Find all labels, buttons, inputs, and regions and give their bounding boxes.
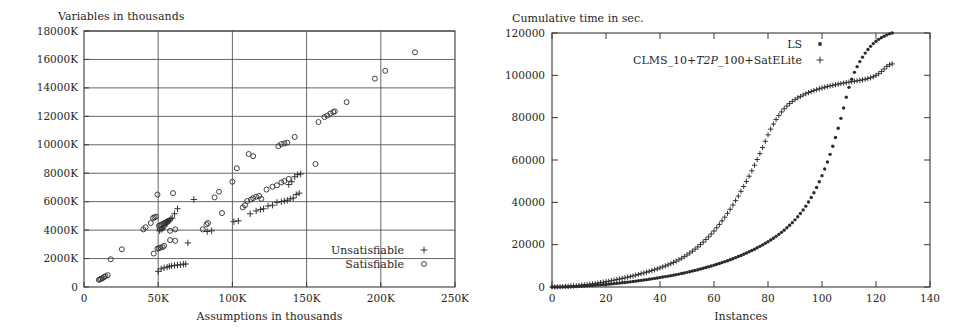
marker-circle (313, 161, 318, 166)
x-tick-label: 100K (218, 292, 246, 304)
marker-circle (234, 166, 239, 171)
y-tick-label: 14000K (37, 81, 78, 93)
legend-label-satisfiable: Satisfiable (345, 258, 404, 271)
marker-dot (796, 215, 799, 218)
y-tick-label: 4000K (43, 224, 78, 236)
marker-circle (155, 192, 160, 197)
y-tick-label: 18000K (37, 25, 78, 37)
y-tick-label: 120000 (505, 27, 545, 39)
marker-dot (828, 153, 831, 156)
marker-dot (826, 160, 829, 163)
marker-circle (173, 227, 178, 232)
marker-dot (850, 77, 853, 80)
y-tick-label: 12000K (37, 110, 78, 122)
x-tick-label: 250K (441, 292, 469, 304)
x-tick-label: 40 (653, 292, 666, 304)
marker-circle (151, 251, 156, 256)
y-tick-label: 0 (538, 281, 545, 293)
y-tick-label: 80000 (512, 111, 545, 123)
marker-dot (869, 45, 872, 48)
y-tick-label: 8000K (43, 167, 78, 179)
legend-label-unsatisfiable: Unsatisfiable (331, 244, 404, 257)
marker-circle (412, 50, 417, 55)
x-tick-label: 0 (81, 292, 88, 304)
marker-dot (777, 233, 780, 236)
marker-dot (837, 126, 840, 129)
legend-marker-dot (818, 42, 822, 46)
marker-dot (812, 191, 815, 194)
marker-circle (264, 187, 269, 192)
legend: UnsatisfiableSatisfiable (331, 244, 428, 271)
x-tick-label: 120 (866, 292, 886, 304)
marker-dot (847, 86, 850, 89)
chart-assumptions-vs-variables: 02000K4000K6000K8000K10000K12000K14000K1… (0, 0, 490, 330)
x-tick-label: 60 (707, 292, 720, 304)
x-tick-label: 150K (293, 292, 321, 304)
marker-circle (168, 228, 173, 233)
marker-circle (372, 76, 377, 81)
marker-dot (788, 224, 791, 227)
x-tick-label: 80 (761, 292, 774, 304)
plot-frame (552, 33, 930, 287)
series-ls (550, 31, 894, 288)
marker-dot (807, 200, 810, 203)
marker-dot (858, 60, 861, 63)
marker-dot (834, 136, 837, 139)
y-tick-label: 2000K (43, 252, 78, 264)
line-plot-svg: 0200004000060000800001000001200000204060… (490, 0, 975, 330)
legend-clms-part-1: CLMS_10+ (633, 54, 696, 67)
marker-dot (845, 95, 848, 98)
axis-ticks-group: 02000K4000K6000K8000K10000K12000K14000K1… (37, 25, 469, 304)
x-tick-label: 200K (367, 292, 395, 304)
y-tick-label: 16000K (37, 53, 78, 65)
marker-dot (866, 48, 869, 51)
marker-circle (322, 115, 327, 120)
marker-dot (820, 174, 823, 177)
marker-dot (818, 180, 821, 183)
y-tick-label: 40000 (512, 196, 545, 208)
marker-circle (292, 134, 297, 139)
scatter-plot-svg: 02000K4000K6000K8000K10000K12000K14000K1… (0, 0, 490, 330)
marker-circle (108, 257, 113, 262)
marker-dot (791, 221, 794, 224)
marker-dot (801, 208, 804, 211)
series-unsatisfiable (155, 171, 304, 275)
marker-dot (872, 42, 875, 45)
marker-dot (891, 31, 894, 34)
marker-dot (831, 144, 834, 147)
figure-pair-page: 02000K4000K6000K8000K10000K12000K14000K1… (0, 0, 975, 330)
marker-circle (251, 154, 256, 159)
marker-dot (861, 55, 864, 58)
marker-circle (220, 211, 225, 216)
marker-dot (855, 65, 858, 68)
marker-circle (171, 191, 176, 196)
marker-dot (780, 231, 783, 234)
marker-dot (842, 106, 845, 109)
marker-circle (173, 238, 178, 243)
x-axis-title: Assumptions in thousands (196, 310, 343, 323)
marker-circle (383, 68, 388, 73)
marker-dot (864, 51, 867, 54)
marker-dot (793, 218, 796, 221)
marker-circle (212, 195, 217, 200)
y-tick-label: 10000K (37, 138, 78, 150)
y-axis-title: Variables in thousands (57, 10, 185, 23)
y-tick-label: 20000 (512, 238, 545, 250)
chart-cumulative-time-vs-instances: 0200004000060000800001000001200000204060… (490, 0, 975, 330)
legend-marker-circle (422, 262, 427, 267)
marker-dot (783, 228, 786, 231)
legend-clms-part-3: _100+SatELite (718, 54, 802, 67)
marker-circle (286, 176, 291, 181)
legend-label-clms: CLMS_10+T2P_100+SatELite (633, 54, 802, 67)
series-clms (549, 61, 894, 289)
legend: LSCLMS_10+T2P_100+SatELite (633, 38, 823, 67)
marker-dot (839, 117, 842, 120)
marker-dot (815, 186, 818, 189)
marker-dot (804, 204, 807, 207)
marker-circle (148, 221, 153, 226)
x-axis-title: Instances (714, 310, 768, 323)
marker-circle (217, 189, 222, 194)
x-tick-label: 140 (920, 292, 940, 304)
marker-circle (316, 120, 321, 125)
y-axis-title: Cumulative time in sec. (512, 12, 644, 25)
